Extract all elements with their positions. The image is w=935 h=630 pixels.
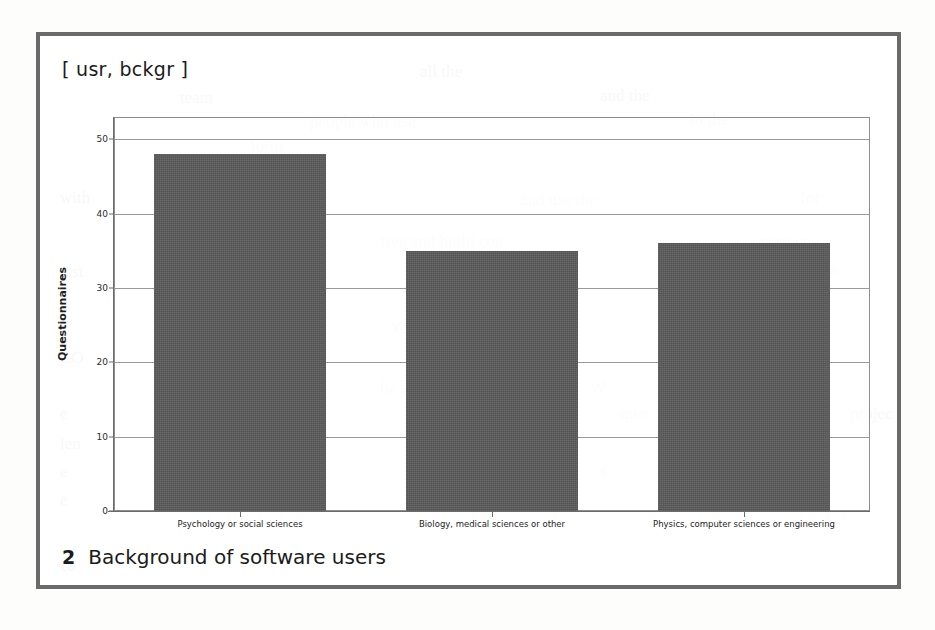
x-tick-mark [240,511,241,517]
bar [406,251,579,511]
y-tick-mark [109,287,114,288]
x-tick-mark [492,511,493,517]
y-tick-label: 20 [97,357,108,367]
x-tick-mark [744,511,745,517]
y-tick-mark [109,436,114,437]
x-axis [108,511,870,512]
y-tick-mark [109,213,114,214]
x-axis-label: Physics, computer sciences or engineerin… [653,519,835,529]
y-tick-mark [109,139,114,140]
x-axis-label: Psychology or social sciences [177,519,302,529]
caption-text: Background of software users [88,545,386,569]
figure-frame: [ usr, bckgr ] Questionnaires 0102030405… [36,32,901,589]
gridline [114,139,870,140]
y-tick-label: 10 [97,432,108,442]
y-axis-title: Questionnaires [56,267,69,361]
y-tick-label: 40 [97,209,108,219]
bar [658,243,831,511]
y-tick-label: 50 [97,134,108,144]
y-tick-mark [109,362,114,363]
bar-chart: Questionnaires 01020304050 Psychology or… [114,117,870,511]
y-tick-label: 0 [102,506,108,516]
figure-caption: 2 Background of software users [62,545,386,569]
scanned-page: all the team and the people who use in t… [0,0,935,630]
y-axis [113,117,114,511]
caption-number: 2 [62,546,75,568]
y-tick-label: 30 [97,283,108,293]
y-tick-mark [109,511,114,512]
chart-title: [ usr, bckgr ] [62,58,188,80]
bar [154,154,327,511]
x-axis-label: Biology, medical sciences or other [419,519,565,529]
